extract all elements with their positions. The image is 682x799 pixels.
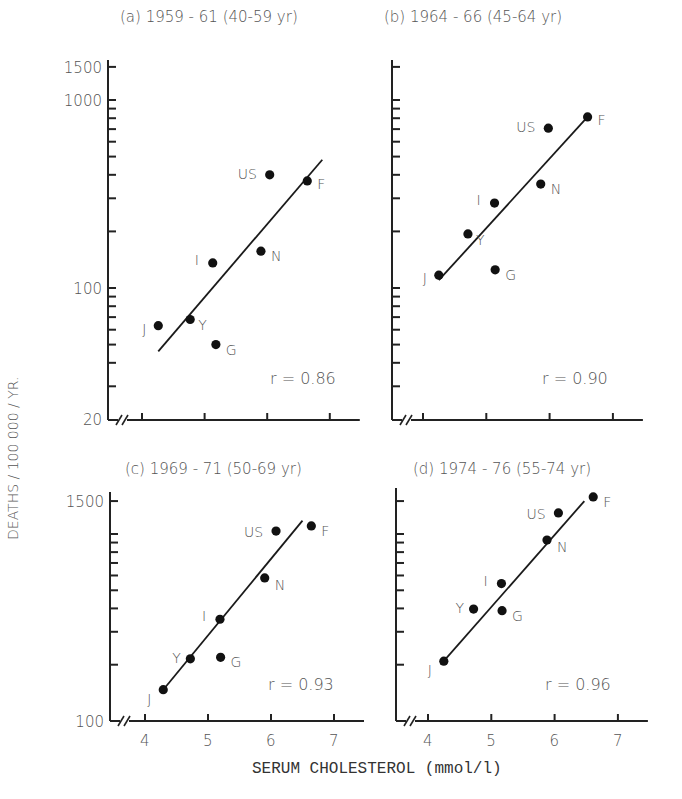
x-tick-label: 4 [423,732,433,750]
regression-line [439,117,588,280]
correlation-label: r = 0.86 [270,369,336,388]
point-label: N [271,248,281,264]
chart-panel-a: (a) 1959 - 61 (40-59 yr)JYGINUSFr = 0.86… [64,8,360,429]
point-label: J [423,270,427,286]
data-point-y [186,654,195,663]
x-tick-label: 7 [613,732,623,750]
data-point-y [469,604,478,613]
data-point-f [589,492,598,501]
data-point-f [307,521,316,530]
data-point-j [434,271,443,280]
data-point-us [554,508,563,517]
data-point-i [208,258,217,267]
point-label: J [147,691,151,707]
data-point-y [186,315,195,324]
point-label: Y [198,317,207,333]
data-point-i [490,198,499,207]
x-tick-label: 6 [266,732,276,750]
point-label: N [557,539,567,555]
data-point-i [215,615,224,624]
point-label: N [275,577,285,593]
data-point-g [491,265,500,274]
x-tick-label: 6 [550,732,560,750]
regression-line [441,501,585,665]
point-label: US [526,506,545,522]
data-point-j [439,657,448,666]
point-label: US [238,166,257,182]
figure-canvas: (a) 1959 - 61 (40-59 yr)JYGINUSFr = 0.86… [0,0,682,799]
regression-line [158,160,322,352]
point-label: I [477,192,481,208]
y-tick-label: 100 [75,713,104,731]
y-tick-label: 100 [73,280,102,298]
point-label: US [516,119,535,135]
data-point-n [256,247,265,256]
y-tick-label: 20 [83,411,102,429]
point-label: Y [456,600,465,616]
point-label: G [226,342,237,358]
chart-panel-b: (b) 1964 - 66 (45-64 yr)JYIGNUSFr = 0.90 [384,8,643,425]
data-point-n [260,573,269,582]
x-axis-label: SERUM CHOLESTEROL (mmol/l) [252,760,502,778]
point-label: G [512,608,523,624]
data-point-n [536,179,545,188]
chart-panel-d: (d) 1974 - 76 (55-74 yr)4567JYGINUSFr = … [396,460,648,750]
point-label: Y [172,650,181,666]
data-point-us [265,170,274,179]
panel-title: (c) 1969 - 71 (50-69 yr) [125,460,302,478]
x-tick-label: 4 [140,732,150,750]
point-label: G [231,654,242,670]
x-tick-label: 7 [329,732,339,750]
y-tick-label: 1500 [64,59,102,77]
data-point-g [497,606,506,615]
data-point-j [154,321,163,330]
chart-panel-c: (c) 1969 - 71 (50-69 yr)4567JYGINUSFr = … [66,460,364,750]
point-label: I [202,608,206,624]
point-label: J [428,662,432,678]
data-point-g [211,340,220,349]
panel-title: (b) 1964 - 66 (45-64 yr) [384,8,562,26]
panel-title: (d) 1974 - 76 (55-74 yr) [413,460,591,478]
data-point-us [544,124,553,133]
x-tick-label: 5 [486,732,496,750]
correlation-label: r = 0.96 [545,675,611,694]
x-tick-label: 5 [203,732,213,750]
data-point-y [463,229,472,238]
panel-title: (a) 1959 - 61 (40-59 yr) [120,8,298,26]
correlation-label: r = 0.93 [268,675,334,694]
point-label: Y [476,232,485,248]
data-point-i [497,579,506,588]
y-tick-label: 1000 [64,92,102,110]
point-label: J [142,321,146,337]
point-label: I [195,252,199,268]
correlation-label: r = 0.90 [542,369,608,388]
data-point-n [542,535,551,544]
data-point-g [216,653,225,662]
data-point-f [303,176,312,185]
data-point-f [583,112,592,121]
data-point-j [159,685,168,694]
data-point-us [271,526,280,535]
point-label: US [244,524,263,540]
point-label: G [505,267,516,283]
point-label: F [317,176,325,192]
point-label: N [551,181,561,197]
point-label: F [321,523,329,539]
point-label: F [603,494,611,510]
point-label: F [598,112,606,128]
point-label: I [483,573,487,589]
y-tick-label: 1500 [66,493,104,511]
y-axis-label: DEATHS / 100 000 / YR. [5,377,21,540]
